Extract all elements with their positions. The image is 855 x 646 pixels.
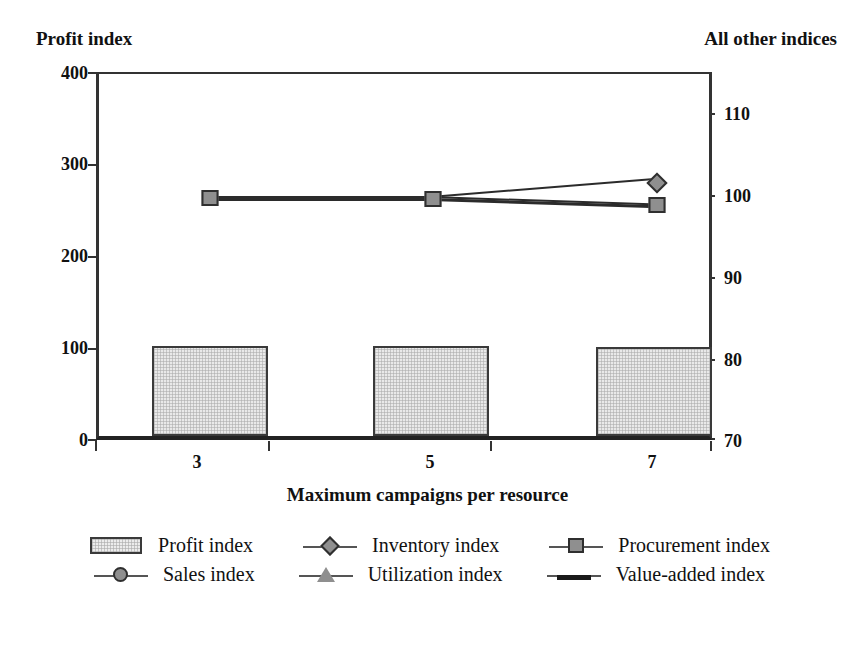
x-tick-mark-end xyxy=(710,441,712,451)
right-tick-100: 100 xyxy=(724,186,751,207)
left-tick-100: 100 xyxy=(61,338,88,359)
legend-label-sales-index: Sales index xyxy=(163,563,255,586)
plot-area xyxy=(96,72,712,440)
right-tick-90: 90 xyxy=(724,268,742,289)
x-axis-title: Maximum campaigns per resource xyxy=(0,484,855,506)
chart-container: Profit index All other indices 400 300 2… xyxy=(0,0,855,646)
marker-procurement-index-5 xyxy=(425,191,442,207)
bar-profit-index-5 xyxy=(373,346,489,436)
chart-legend: Profit index Inventory index Procurement… xyxy=(0,534,855,592)
right-tick-110: 110 xyxy=(724,104,750,125)
legend-label-profit-index: Profit index xyxy=(158,534,253,557)
bar-profit-index-3 xyxy=(152,346,268,436)
legend-label-inventory-index: Inventory index xyxy=(372,534,499,557)
x-tick-mark-1 xyxy=(268,441,270,451)
x-tick-label-7: 7 xyxy=(648,452,657,473)
legend-label-value-added-index: Value-added index xyxy=(616,563,765,586)
line-inventory-index-seg2 xyxy=(430,178,657,198)
legend-row-2: Sales index Utilization index Value-adde… xyxy=(0,563,855,586)
bar-swatch-icon xyxy=(85,535,147,557)
square-marker-icon xyxy=(545,535,607,557)
legend-label-procurement-index: Procurement index xyxy=(618,534,770,557)
bar-profit-index-7 xyxy=(596,347,712,436)
x-tick-mark-start xyxy=(95,441,97,451)
x-tick-mark-2 xyxy=(490,441,492,451)
x-tick-label-3: 3 xyxy=(193,452,202,473)
left-tick-0: 0 xyxy=(79,430,88,451)
legend-label-utilization-index: Utilization index xyxy=(368,563,503,586)
line-inventory-index xyxy=(207,196,430,198)
legend-item-inventory-index[interactable]: Inventory index xyxy=(299,534,499,557)
legend-item-utilization-index[interactable]: Utilization index xyxy=(295,563,503,586)
marker-procurement-index-7 xyxy=(649,197,666,213)
right-tick-70: 70 xyxy=(724,431,742,452)
legend-item-value-added-index[interactable]: Value-added index xyxy=(543,563,765,586)
triangle-marker-icon xyxy=(295,564,357,586)
legend-item-profit-index[interactable]: Profit index xyxy=(85,534,253,557)
x-tick-label-5: 5 xyxy=(426,452,435,473)
legend-row-1: Profit index Inventory index Procurement… xyxy=(0,534,855,557)
legend-item-procurement-index[interactable]: Procurement index xyxy=(545,534,770,557)
line-value-added-index xyxy=(207,198,430,201)
left-tick-200: 200 xyxy=(61,246,88,267)
legend-item-sales-index[interactable]: Sales index xyxy=(90,563,255,586)
circle-marker-icon xyxy=(90,564,152,586)
left-tick-300: 300 xyxy=(61,154,88,175)
marker-inventory-index-7 xyxy=(646,172,667,193)
diamond-marker-icon xyxy=(299,535,361,557)
marker-procurement-index-3 xyxy=(202,190,219,206)
line-marker-icon xyxy=(543,564,605,586)
left-tick-400: 400 xyxy=(61,63,88,84)
right-tick-80: 80 xyxy=(724,350,742,371)
